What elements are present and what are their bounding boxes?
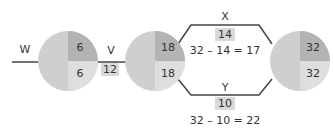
edge-v-label: V bbox=[104, 45, 118, 57]
node-1-top-value: 6 bbox=[70, 42, 90, 54]
edge-w-label: W bbox=[18, 44, 32, 56]
flow-diagram bbox=[0, 0, 333, 132]
node-3-top-value: 32 bbox=[303, 42, 323, 54]
node-1 bbox=[38, 31, 98, 91]
edge-v-value: 12 bbox=[101, 63, 119, 76]
node-3-bottom-value: 32 bbox=[303, 68, 323, 80]
node-3 bbox=[270, 31, 330, 91]
edge-y-value: 10 bbox=[215, 97, 235, 110]
node-2 bbox=[125, 31, 185, 91]
node-2-top-value: 18 bbox=[158, 42, 178, 54]
edge-x-value: 14 bbox=[215, 28, 235, 41]
edge-y-equation: 32 – 10 = 22 bbox=[185, 115, 265, 127]
node-2-bottom-value: 18 bbox=[158, 68, 178, 80]
node-1-bottom-value: 6 bbox=[70, 68, 90, 80]
edge-x-equation: 32 – 14 = 17 bbox=[185, 45, 265, 57]
edge-x-label: X bbox=[218, 11, 232, 23]
edge-y-label: Y bbox=[218, 82, 232, 94]
